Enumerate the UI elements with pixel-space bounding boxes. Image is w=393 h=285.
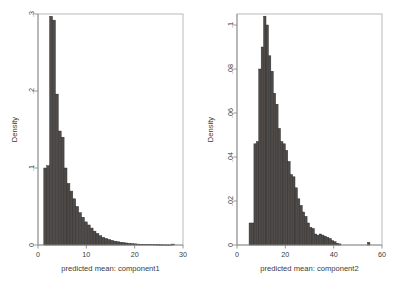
y-tick-label: 0	[226, 243, 235, 247]
histogram-bar	[273, 93, 275, 245]
histogram-bar	[50, 16, 53, 245]
x-tick-label: 30	[179, 250, 187, 259]
histogram-bar	[70, 191, 73, 245]
y-tick-label: .1	[226, 22, 235, 28]
panel-component1: 0.1.2.30102030Densitypredicted mean: com…	[0, 0, 196, 285]
histogram-bar	[281, 142, 283, 245]
histogram-bar	[317, 235, 319, 245]
histogram-bar	[111, 240, 114, 245]
y-tick-label: .1	[27, 165, 36, 171]
histogram-bar	[76, 207, 79, 246]
histogram-bar	[326, 237, 328, 245]
histogram-bar	[58, 131, 61, 245]
histogram-bar	[305, 216, 307, 245]
histogram-bar	[331, 241, 333, 245]
histogram-bar	[276, 104, 278, 245]
y-tick-label: 0	[27, 243, 36, 247]
histogram-bar	[249, 223, 251, 245]
histogram-bar	[293, 177, 295, 245]
histogram-bar	[259, 69, 261, 245]
chart-component2: 0.02.04.06.08.10204060Densitypredicted m…	[196, 0, 393, 285]
histogram-bar	[271, 71, 273, 245]
histogram-bar	[96, 233, 99, 245]
histogram-bar	[268, 56, 270, 245]
histogram-bar	[53, 20, 56, 245]
histogram-bar	[113, 241, 116, 245]
y-tick-label: .02	[226, 196, 235, 206]
x-axis-title: predicted mean: component1	[61, 264, 159, 273]
histogram-bar	[79, 213, 82, 245]
chart-component1: 0.1.2.30102030Densitypredicted mean: com…	[0, 0, 196, 285]
y-tick-label: .3	[27, 11, 36, 17]
histogram-bar	[314, 234, 316, 245]
y-tick-label: .06	[226, 108, 235, 118]
y-axis-title: Density	[10, 117, 19, 143]
histogram-bar	[252, 223, 254, 245]
histogram-bar	[278, 128, 280, 245]
x-tick-label: 60	[378, 250, 386, 259]
histogram-bar	[285, 150, 287, 245]
x-tick-label: 20	[281, 250, 289, 259]
histogram-bar	[102, 237, 105, 245]
histogram-bar	[93, 231, 96, 245]
histogram-bar	[288, 161, 290, 245]
histogram-bar	[256, 142, 258, 245]
y-axis-title: Density	[206, 117, 215, 143]
histogram-bar	[334, 242, 336, 245]
histogram-bar	[61, 137, 64, 245]
histogram-bar	[261, 47, 263, 245]
histogram-bar	[87, 225, 90, 245]
histogram-bar	[44, 168, 47, 245]
histogram-bar	[322, 235, 324, 245]
x-axis-title: predicted mean: component2	[260, 264, 358, 273]
panel-component2: 0.02.04.06.08.10204060Densitypredicted m…	[196, 0, 392, 285]
histogram-bar	[300, 205, 302, 245]
histogram-bar	[254, 144, 256, 245]
histogram-bars	[249, 16, 370, 245]
y-tick-label: .2	[27, 88, 36, 94]
histogram-bar	[116, 242, 119, 245]
histogram-bar	[105, 238, 108, 245]
histogram-bar	[64, 168, 67, 245]
histogram-bar	[324, 236, 326, 245]
x-tick-label: 0	[36, 250, 40, 259]
histogram-bar	[283, 144, 285, 245]
x-tick-label: 20	[131, 250, 139, 259]
histogram-bar	[302, 212, 304, 245]
histogram-bar	[266, 25, 268, 245]
y-tick-label: .04	[226, 152, 235, 162]
histogram-bar	[84, 222, 87, 245]
y-tick-label: .08	[226, 64, 235, 74]
x-tick-label: 40	[330, 250, 338, 259]
histogram-figure: 0.1.2.30102030Densitypredicted mean: com…	[0, 0, 393, 285]
histogram-bar	[47, 166, 50, 245]
histogram-bar	[108, 239, 111, 245]
histogram-bar	[99, 236, 102, 245]
histogram-bar	[55, 94, 58, 245]
histogram-bar	[297, 199, 299, 245]
histogram-bar	[307, 223, 309, 245]
histogram-bars	[44, 16, 174, 245]
x-tick-label: 10	[82, 250, 90, 259]
histogram-bar	[329, 238, 331, 245]
histogram-bar	[67, 183, 70, 245]
histogram-bar	[310, 227, 312, 245]
histogram-bar	[295, 188, 297, 245]
x-tick-label: 0	[235, 250, 239, 259]
histogram-bar	[319, 234, 321, 245]
histogram-bar	[264, 16, 266, 245]
histogram-bar	[90, 228, 93, 245]
histogram-bar	[312, 229, 314, 246]
histogram-bar	[82, 217, 85, 245]
histogram-bar	[290, 175, 292, 245]
histogram-bar	[73, 199, 76, 245]
